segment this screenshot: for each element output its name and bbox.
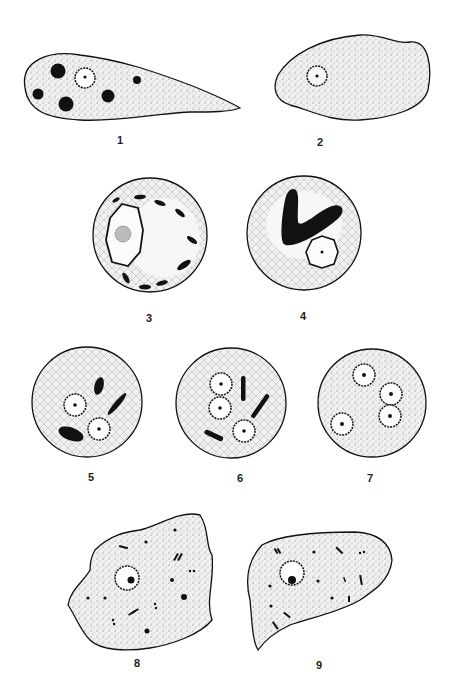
figure-6: 6 — [176, 348, 286, 484]
figure-label-5: 5 — [88, 471, 94, 483]
figure-1: 1 — [24, 54, 240, 146]
figure-5: 5 — [32, 347, 142, 483]
figure-2: 2 — [275, 35, 430, 148]
figure-3: 3 — [93, 178, 207, 324]
figure-9: 9 — [248, 532, 392, 671]
figure-label-6: 6 — [237, 472, 243, 484]
figure-label-3: 3 — [146, 312, 152, 324]
figure-label-8: 8 — [134, 657, 140, 669]
figure-label-2: 2 — [317, 136, 323, 148]
plate-illustration: 1 2 3 4 — [0, 0, 450, 699]
figure-label-9: 9 — [316, 659, 322, 671]
figure-4: 4 — [247, 176, 361, 322]
figure-label-7: 7 — [367, 472, 373, 484]
figure-7: 7 — [318, 349, 426, 484]
figure-8: 8 — [68, 514, 213, 669]
figure-label-1: 1 — [117, 134, 123, 146]
figure-label-4: 4 — [300, 310, 307, 322]
